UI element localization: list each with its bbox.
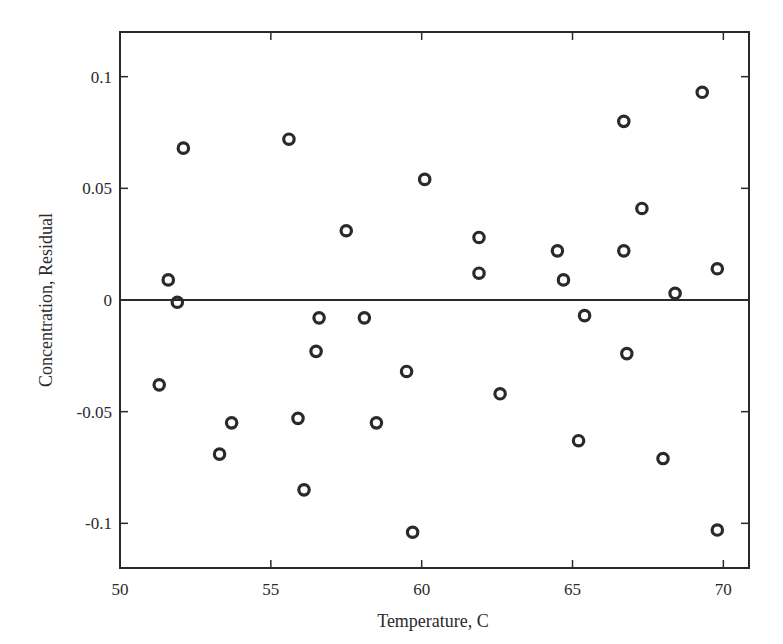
data-point-marker (622, 348, 632, 358)
data-point-marker (658, 453, 668, 463)
data-point-marker (226, 418, 236, 428)
x-axis-label: Temperature, C (377, 611, 489, 631)
data-point-marker (552, 246, 562, 256)
data-point-marker (474, 268, 484, 278)
data-point-marker (371, 418, 381, 428)
y-axis-label: Concentration, Residual (36, 213, 56, 387)
data-point-marker (401, 366, 411, 376)
data-point-marker (558, 275, 568, 285)
y-tick-label: -0.1 (85, 514, 112, 533)
data-point-marker (407, 527, 417, 537)
y-tick-label: 0.1 (91, 68, 112, 87)
x-axis: 5055606570 (112, 32, 732, 599)
x-tick-label: 65 (564, 580, 581, 599)
x-tick-label: 70 (715, 580, 732, 599)
data-point-marker (293, 413, 303, 423)
data-point-marker (712, 264, 722, 274)
data-point-marker (573, 436, 583, 446)
data-point-marker (712, 525, 722, 535)
data-point-marker (341, 226, 351, 236)
data-point-marker (359, 313, 369, 323)
data-point-marker (579, 310, 589, 320)
data-point-marker (311, 346, 321, 356)
data-point-marker (670, 288, 680, 298)
data-point-marker (284, 134, 294, 144)
data-point-marker (697, 87, 707, 97)
data-point-marker (154, 380, 164, 390)
data-point-marker (163, 275, 173, 285)
data-point-marker (637, 203, 647, 213)
x-tick-label: 55 (262, 580, 279, 599)
data-point-marker (619, 246, 629, 256)
scatter-chart: 5055606570 -0.1-0.0500.050.1 Temperature… (0, 0, 783, 644)
data-point-marker (495, 389, 505, 399)
y-tick-label: 0 (104, 291, 113, 310)
data-point-marker (619, 116, 629, 126)
data-point-marker (419, 174, 429, 184)
data-point-marker (214, 449, 224, 459)
data-point-marker (172, 297, 182, 307)
data-point-marker (314, 313, 324, 323)
data-point-marker (474, 232, 484, 242)
y-tick-label: -0.05 (77, 403, 112, 422)
data-point-marker (178, 143, 188, 153)
data-point-marker (299, 485, 309, 495)
data-points (154, 87, 723, 537)
y-tick-label: 0.05 (82, 179, 112, 198)
x-tick-label: 50 (112, 580, 129, 599)
x-tick-label: 60 (413, 580, 430, 599)
